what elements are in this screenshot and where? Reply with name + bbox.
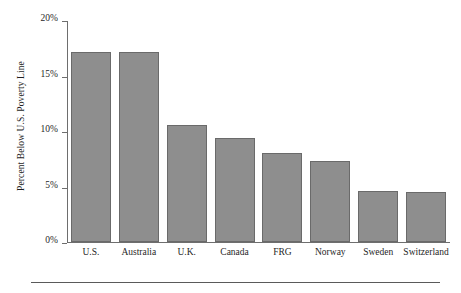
x-axis-label: Norway [306,247,354,257]
y-tick-mark: 15% [62,77,67,78]
bar [71,52,111,242]
bar [358,191,398,242]
x-axis-label: Canada [211,247,259,257]
y-tick-label: 15% [41,69,58,79]
bar [215,138,255,242]
y-tick-label: 20% [41,13,58,23]
y-tick-label: 5% [45,180,58,190]
footer-divider [31,282,440,283]
x-axis-label: Australia [115,247,163,257]
bar [310,161,350,242]
y-tick-mark: 10% [62,132,67,133]
y-axis-line [67,21,68,243]
x-axis-line [67,242,450,243]
y-tick-mark: 20% [62,21,67,22]
bar [119,52,159,242]
bar-chart-figure: Percent Below U.S. Poverty Line 0%5%10%1… [0,0,461,293]
y-tick-label: 0% [45,235,58,245]
x-axis-label: Switzerland [402,247,450,257]
bar [262,153,302,242]
y-axis-title: Percent Below U.S. Poverty Line [13,6,29,246]
y-tick-mark: 5% [62,188,67,189]
bar [167,125,207,242]
y-tick-mark: 0% [62,243,67,244]
x-axis-label: Sweden [354,247,402,257]
x-axis-label: FRG [259,247,307,257]
y-tick-label: 10% [41,124,58,134]
plot-area: 0%5%10%15%20% [67,21,450,243]
x-axis-label: U.K. [163,247,211,257]
x-axis-label: U.S. [67,247,115,257]
bar [406,192,446,242]
